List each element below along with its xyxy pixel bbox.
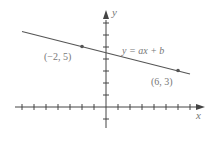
axes: [15, 10, 205, 128]
equation-label: y = ax + b: [121, 45, 164, 56]
point-label-1: (−2, 5): [44, 51, 71, 63]
x-axis-label: x: [195, 109, 201, 121]
y-axis-label: y: [111, 6, 117, 18]
data-point: [80, 45, 84, 49]
data-point: [176, 69, 180, 73]
coordinate-plane: x y y = ax + b (−2, 5) (6, 3): [0, 0, 214, 141]
point-label-2: (6, 3): [151, 76, 173, 88]
